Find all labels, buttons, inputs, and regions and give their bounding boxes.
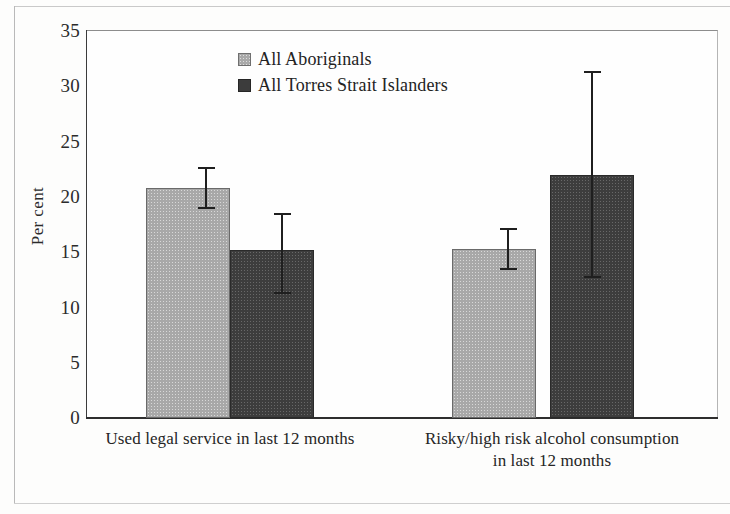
legend-label-aboriginals: All Aboriginals <box>258 50 372 68</box>
legend-swatch-light-icon <box>238 53 251 66</box>
y-tick-0: 0 <box>4 408 80 427</box>
y-axis-line <box>86 30 87 419</box>
legend-item-aboriginals: All Aboriginals <box>238 46 448 72</box>
error-cap-bottom <box>584 276 601 278</box>
page-border-bottom <box>14 503 730 504</box>
error-cap-bottom <box>500 268 517 270</box>
error-stem <box>507 228 509 270</box>
y-tick-35: 35 <box>4 21 80 40</box>
error-stem <box>591 71 593 278</box>
y-tick-5: 5 <box>4 353 80 372</box>
y-tick-15: 15 <box>4 242 80 261</box>
chart-page: Per cent 35 30 25 20 15 10 5 0 <box>0 0 730 514</box>
bar-torres-strait-legal-service <box>230 250 314 418</box>
legend-item-torres-strait: All Torres Strait Islanders <box>238 72 448 98</box>
x-category-label-legal-service-line1: Used legal service in last 12 months <box>60 428 400 450</box>
legend-label-torres-strait: All Torres Strait Islanders <box>258 76 448 94</box>
y-tick-10: 10 <box>4 298 80 317</box>
legend: All Aboriginals All Torres Strait Island… <box>238 46 448 98</box>
y-tick-20: 20 <box>4 187 80 206</box>
error-cap-bottom <box>274 292 291 294</box>
bar-aboriginals-legal-service <box>146 188 230 418</box>
error-cap-bottom <box>198 207 215 209</box>
error-stem <box>281 213 283 294</box>
x-category-label-alcohol-line1: Risky/high risk alcohol consumption <box>378 428 726 450</box>
x-category-label-alcohol: Risky/high risk alcohol consumption in l… <box>378 428 726 472</box>
page-border-top <box>14 6 730 7</box>
bar-aboriginals-alcohol <box>452 249 536 418</box>
y-tick-25: 25 <box>4 132 80 151</box>
legend-swatch-dark-icon <box>238 79 251 92</box>
y-tick-30: 30 <box>4 76 80 95</box>
x-category-label-alcohol-line2: in last 12 months <box>378 450 726 472</box>
error-stem <box>205 167 207 209</box>
x-category-label-legal-service: Used legal service in last 12 months <box>60 428 400 450</box>
